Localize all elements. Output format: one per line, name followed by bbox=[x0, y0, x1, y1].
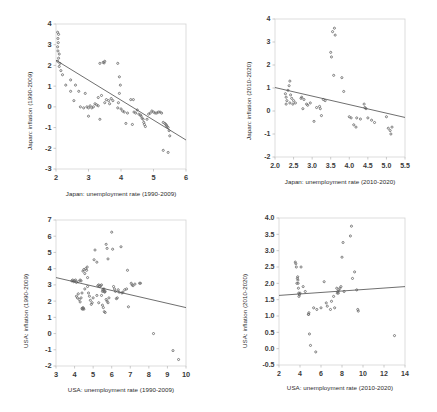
svg-text:4.0: 4.0 bbox=[344, 162, 354, 169]
svg-text:1: 1 bbox=[47, 313, 51, 322]
svg-text:-2: -2 bbox=[45, 144, 52, 153]
svg-text:12: 12 bbox=[380, 370, 388, 377]
svg-text:9: 9 bbox=[165, 370, 169, 379]
svg-text:2.5: 2.5 bbox=[289, 162, 299, 169]
svg-text:3.5: 3.5 bbox=[326, 162, 336, 169]
svg-text:2: 2 bbox=[54, 173, 58, 182]
panel-japan-2010-2020: 2.02.53.03.54.04.55.05.5-2-101234 Japan:… bbox=[219, 0, 437, 206]
svg-text:4.0: 4.0 bbox=[265, 214, 275, 221]
svg-text:5: 5 bbox=[47, 248, 51, 257]
svg-text:6: 6 bbox=[184, 173, 188, 182]
svg-text:4: 4 bbox=[267, 15, 271, 22]
svg-text:2: 2 bbox=[47, 61, 51, 70]
svg-text:1.0: 1.0 bbox=[265, 312, 275, 319]
svg-text:5: 5 bbox=[151, 173, 155, 182]
scatter-plot-usa-1990-2009: 345678910-2-101234567 bbox=[0, 206, 218, 412]
y-axis-label-4: USA: inflation (2010-2020) bbox=[241, 274, 248, 348]
plot-frame-2 bbox=[275, 19, 405, 157]
svg-text:-3: -3 bbox=[45, 164, 52, 173]
svg-text:-2: -2 bbox=[45, 361, 52, 370]
svg-text:3: 3 bbox=[47, 40, 51, 49]
svg-text:2.5: 2.5 bbox=[265, 263, 275, 270]
svg-text:3: 3 bbox=[86, 173, 90, 182]
panel-usa-2010-2020: 2468101214-0.50.00.51.01.52.02.53.03.54.… bbox=[219, 206, 437, 412]
svg-text:2: 2 bbox=[47, 297, 51, 306]
y-axis-label-2: Japan: inflation (2010-2020) bbox=[245, 62, 252, 140]
scatter-plot-usa-2010-2020: 2468101214-0.50.00.51.01.52.02.53.03.54.… bbox=[219, 206, 437, 412]
svg-text:2: 2 bbox=[277, 370, 281, 377]
svg-text:-1: -1 bbox=[45, 123, 52, 132]
svg-text:10: 10 bbox=[359, 370, 367, 377]
svg-text:2.0: 2.0 bbox=[265, 280, 275, 287]
svg-text:4: 4 bbox=[47, 264, 52, 273]
x-axis-label-4: USA: unemployment rate (2010-2020) bbox=[260, 384, 420, 391]
x-axis-label-2: Japan: unemployment rate (2010-2020) bbox=[260, 178, 420, 185]
panel-usa-1990-2009: 345678910-2-101234567 USA: inflation (19… bbox=[0, 206, 218, 412]
svg-text:0: 0 bbox=[47, 329, 51, 338]
svg-text:3.0: 3.0 bbox=[265, 247, 275, 254]
svg-text:0: 0 bbox=[47, 102, 51, 111]
svg-text:5.5: 5.5 bbox=[400, 162, 410, 169]
svg-text:4: 4 bbox=[298, 370, 302, 377]
svg-text:4: 4 bbox=[73, 370, 78, 379]
svg-text:3: 3 bbox=[47, 280, 51, 289]
svg-text:1: 1 bbox=[47, 82, 51, 91]
svg-text:1: 1 bbox=[267, 84, 271, 91]
svg-text:6: 6 bbox=[319, 370, 323, 377]
svg-text:4.5: 4.5 bbox=[363, 162, 373, 169]
svg-text:3: 3 bbox=[54, 370, 58, 379]
svg-text:2.0: 2.0 bbox=[270, 162, 280, 169]
panel-japan-1990-2009: 23456-3-2-101234 Japan: inflation (1990-… bbox=[0, 0, 218, 206]
svg-text:5: 5 bbox=[91, 370, 95, 379]
svg-text:-2: -2 bbox=[264, 153, 270, 160]
svg-text:0.5: 0.5 bbox=[265, 329, 275, 336]
svg-text:10: 10 bbox=[182, 370, 190, 379]
svg-text:-1: -1 bbox=[264, 130, 270, 137]
svg-text:3.5: 3.5 bbox=[265, 231, 275, 238]
svg-text:6: 6 bbox=[47, 232, 51, 241]
x-axis-label-1: Japan: unemployment rate (1990-2009) bbox=[41, 190, 201, 197]
svg-text:2: 2 bbox=[267, 61, 271, 68]
svg-text:4: 4 bbox=[119, 173, 124, 182]
svg-text:0.0: 0.0 bbox=[265, 345, 275, 352]
y-axis-label-3: USA: inflation (1990-2009) bbox=[22, 274, 29, 348]
svg-text:1.5: 1.5 bbox=[265, 296, 275, 303]
svg-text:7: 7 bbox=[128, 370, 132, 379]
svg-text:5.0: 5.0 bbox=[382, 162, 392, 169]
svg-text:0: 0 bbox=[267, 107, 271, 114]
svg-text:8: 8 bbox=[340, 370, 344, 377]
svg-text:8: 8 bbox=[147, 370, 151, 379]
svg-text:4: 4 bbox=[47, 19, 52, 28]
plot-frame-1 bbox=[56, 24, 186, 169]
svg-text:7: 7 bbox=[47, 215, 51, 224]
svg-text:6: 6 bbox=[110, 370, 114, 379]
svg-text:-1: -1 bbox=[45, 345, 52, 354]
x-axis-label-3: USA: unemployment rate (1990-2009) bbox=[41, 386, 201, 393]
svg-text:3.0: 3.0 bbox=[307, 162, 317, 169]
svg-text:14: 14 bbox=[401, 370, 409, 377]
y-axis-label-1: Japan: inflation (1990-2009) bbox=[26, 72, 33, 150]
svg-text:-0.5: -0.5 bbox=[262, 361, 274, 368]
svg-text:3: 3 bbox=[267, 38, 271, 45]
plot-frame-4 bbox=[279, 218, 405, 365]
